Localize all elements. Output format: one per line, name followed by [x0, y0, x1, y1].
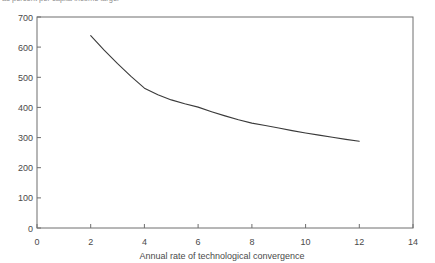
- x-tick-labels: 0 2 4 6 8 10 12 14: [34, 237, 418, 247]
- y-tick-label: 100: [18, 193, 33, 203]
- y-axis-ticks: [37, 17, 41, 228]
- y-tick-label: 500: [18, 73, 33, 83]
- y-tick-label: 600: [18, 43, 33, 53]
- y-tick-label: 200: [18, 163, 33, 173]
- y-tick-label: 300: [18, 133, 33, 143]
- plot-frame: [37, 17, 413, 228]
- y-tick-label: 400: [18, 103, 33, 113]
- y-tick-labels: 700 600 500 400 300 200 100 0: [18, 13, 33, 234]
- x-tick-label: 14: [408, 237, 418, 247]
- x-tick-label: 10: [301, 237, 311, 247]
- y-tick-label: 700: [18, 13, 33, 23]
- x-axis-title: Annual rate of technological convergence: [139, 251, 304, 261]
- chart-figure: 700 600 500 400 300 200 100 0 0 2 4 6 8 …: [0, 0, 435, 263]
- x-axis-ticks: [37, 224, 413, 228]
- x-tick-label: 8: [249, 237, 254, 247]
- x-tick-label: 6: [196, 237, 201, 247]
- y-tick-label: 0: [28, 224, 33, 234]
- line-chart-plot: 700 600 500 400 300 200 100 0 0 2 4 6 8 …: [0, 0, 435, 263]
- x-tick-label: 12: [354, 237, 364, 247]
- x-tick-label: 4: [142, 237, 147, 247]
- plot-frame-rect: [37, 17, 413, 228]
- x-tick-label: 2: [88, 237, 93, 247]
- x-tick-label: 0: [34, 237, 39, 247]
- data-series-line: [91, 36, 360, 142]
